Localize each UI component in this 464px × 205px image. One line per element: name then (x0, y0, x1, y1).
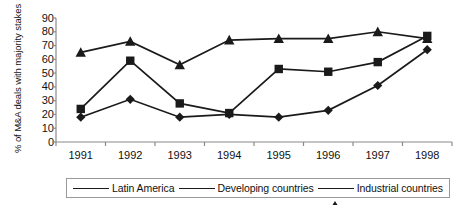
legend-item-label: Industrial countries (357, 182, 443, 194)
marker-square (126, 57, 134, 65)
chart-container: % of M&A deals with majority stakes 9080… (0, 0, 464, 205)
plot-area (0, 0, 464, 205)
legend-item-label: Developing countries (218, 182, 314, 194)
marker-square (324, 68, 332, 76)
x-tick-label: 1995 (257, 150, 301, 161)
x-tick-label: 1997 (356, 150, 400, 161)
marker-square (275, 65, 283, 73)
legend-swatch-square-icon (73, 182, 109, 194)
marker-triangle (125, 36, 135, 46)
chart-legend: Latin AmericaDeveloping countriesIndustr… (66, 178, 450, 198)
legend-item-label: Latin America (112, 182, 174, 194)
marker-diamond (274, 113, 283, 122)
marker-triangle (175, 60, 185, 70)
marker-diamond (126, 95, 135, 104)
marker-diamond (324, 106, 333, 115)
x-tick-label: 1996 (306, 150, 350, 161)
marker-diamond (175, 113, 184, 122)
marker-square (176, 99, 184, 107)
x-tick-label: 1994 (207, 150, 251, 161)
marker-diamond (76, 113, 85, 122)
legend-item-triangle[interactable]: Industrial countries (318, 182, 443, 194)
legend-item-diamond[interactable]: Developing countries (179, 182, 314, 194)
x-tick-label: 1993 (158, 150, 202, 161)
x-tick-label: 1991 (59, 150, 103, 161)
marker-triangle (373, 27, 383, 37)
legend-swatch-triangle-icon (318, 182, 354, 194)
legend-item-square[interactable]: Latin America (73, 182, 174, 194)
marker-square (77, 105, 85, 113)
series-line (81, 36, 428, 113)
legend-swatch-diamond-icon (179, 182, 215, 194)
x-tick-label: 1998 (405, 150, 449, 161)
marker-square (374, 58, 382, 66)
x-tick-label: 1992 (108, 150, 152, 161)
